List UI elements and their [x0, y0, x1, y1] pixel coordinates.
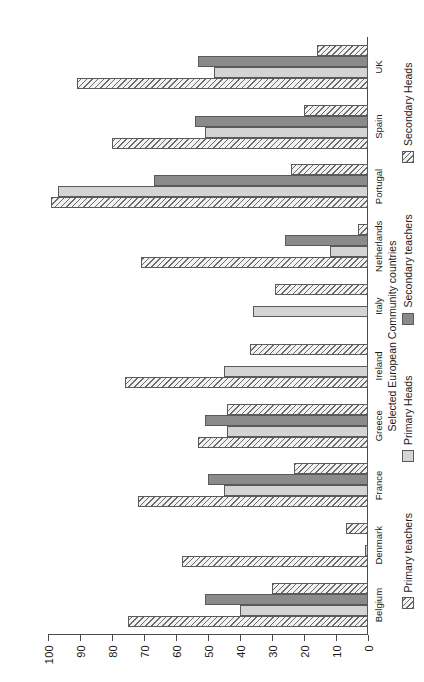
category-axis-title: Selected European Community countries: [386, 37, 398, 635]
axis-tick: 20: [304, 635, 305, 641]
bar: [198, 56, 368, 67]
legend-item: Secondary Heads: [402, 63, 414, 163]
bar: [182, 556, 368, 567]
axis-tick: 40: [240, 635, 241, 641]
bar: [205, 415, 368, 426]
legend-label: Primary teachers: [402, 513, 414, 592]
bar-group: [48, 344, 368, 388]
bar: [198, 437, 368, 448]
bar: [224, 366, 368, 377]
axis-tick: 100: [48, 635, 49, 641]
bar: [205, 127, 368, 138]
bar: [346, 523, 368, 534]
axis-tick-label: 20: [299, 645, 311, 658]
bar-group: [48, 284, 368, 328]
bar: [51, 198, 368, 209]
bar-group: [48, 45, 368, 89]
bar: [275, 284, 368, 295]
legend-label: Primary Heads: [402, 376, 414, 445]
axis-tick-label: 40: [235, 645, 247, 658]
bar: [304, 105, 368, 116]
axis-tick-label: 0: [363, 645, 375, 651]
legend-swatch-icon: [402, 597, 414, 609]
category-label: UK: [373, 60, 384, 73]
bar: [224, 486, 368, 497]
bar: [365, 545, 368, 556]
axis-tick: 50: [208, 635, 209, 641]
legend-label: Secondary teachers: [402, 214, 414, 307]
bar: [285, 235, 368, 246]
bar: [253, 306, 368, 317]
legend-swatch-icon: [402, 151, 414, 163]
bar: [317, 45, 368, 56]
axis-tick-label: 70: [139, 645, 151, 658]
category-label: Spain: [373, 115, 384, 139]
bar: [214, 67, 368, 78]
legend-swatch-icon: [402, 450, 414, 462]
bar: [112, 138, 368, 149]
legend-item: Primary teachers: [402, 513, 414, 609]
chart-figure: 0102030405060708090100 BelgiumDenmarkFra…: [0, 0, 424, 682]
bar: [272, 583, 368, 594]
legend-item: Secondary teachers: [402, 214, 414, 324]
bar: [330, 246, 368, 257]
plot-area: 0102030405060708090100 BelgiumDenmarkFra…: [48, 37, 368, 635]
bar-group: [48, 583, 368, 627]
bar-group: [48, 523, 368, 567]
category-label: Denmark: [373, 526, 384, 565]
legend-item: Primary Heads: [402, 376, 414, 462]
bar: [240, 605, 368, 616]
legend-label: Secondary Heads: [402, 63, 414, 146]
bar: [138, 497, 368, 508]
bar: [358, 224, 368, 235]
axis-tick-label: 30: [267, 645, 279, 658]
bar: [154, 176, 368, 187]
bar: [58, 187, 368, 198]
bar: [208, 475, 368, 486]
axis-tick: 0: [368, 635, 369, 641]
category-label: Italy: [373, 297, 384, 314]
category-label: Greece: [373, 410, 384, 441]
axis-tick-label: 90: [75, 645, 87, 658]
bar-group: [48, 464, 368, 508]
axis-tick: 70: [144, 635, 145, 641]
axis-tick: 10: [336, 635, 337, 641]
bar: [125, 377, 368, 388]
axis-tick-label: 50: [203, 645, 215, 658]
bar: [227, 426, 368, 437]
category-label: Portugal: [373, 169, 384, 204]
bar-group: [48, 404, 368, 448]
bar: [128, 616, 368, 627]
axis-tick: 30: [272, 635, 273, 641]
category-label: Netherlands: [373, 221, 384, 272]
axis-tick: 80: [112, 635, 113, 641]
value-axis-line: [48, 634, 368, 635]
category-label: France: [373, 471, 384, 501]
bar: [205, 594, 368, 605]
axis-tick-label: 80: [107, 645, 119, 658]
bar-group: [48, 105, 368, 149]
axis-tick-label: 100: [43, 645, 55, 664]
legend-swatch-icon: [402, 313, 414, 325]
legend: Primary teachersPrimary HeadsSecondary t…: [402, 37, 414, 635]
bar: [227, 404, 368, 415]
bar: [291, 165, 368, 176]
axis-tick: 90: [80, 635, 81, 641]
category-label: Ireland: [373, 351, 384, 380]
category-label: Belgium: [373, 588, 384, 622]
bar-group: [48, 224, 368, 268]
axis-tick-label: 10: [331, 645, 343, 658]
bar: [77, 78, 368, 89]
bar: [141, 257, 368, 268]
bar: [250, 344, 368, 355]
axis-tick: 60: [176, 635, 177, 641]
axis-tick-label: 60: [171, 645, 183, 658]
bar-group: [48, 165, 368, 209]
bar: [195, 116, 368, 127]
bar: [294, 464, 368, 475]
